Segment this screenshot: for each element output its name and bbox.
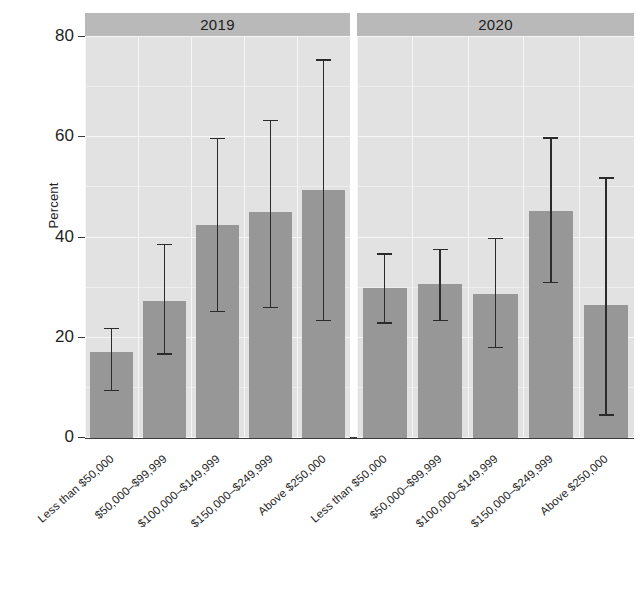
x-tick-label: Less than $50,000: [268, 452, 389, 559]
x-axis-tick-labels: Less than $50,000$50,000–$99,999$100,000…: [0, 0, 640, 595]
x-tick-label: Above $250,000: [489, 452, 610, 559]
bar-chart: Percent 020406080 20192020 Less than $50…: [0, 0, 640, 595]
x-tick-label: Above $250,000: [206, 452, 327, 559]
x-tick-label: $50,000–$99,999: [323, 452, 444, 559]
x-tick-label: $150,000–$249,999: [434, 452, 555, 559]
x-tick-label: $100,000–$149,999: [378, 452, 499, 559]
